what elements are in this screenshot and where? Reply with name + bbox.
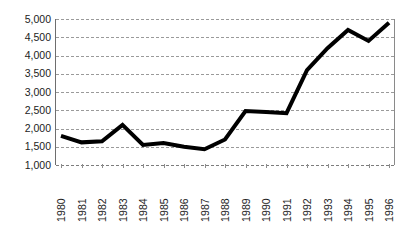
x-tick-mark [102,164,103,168]
x-tick-mark [246,164,247,168]
y-tick-label: 1,000 [3,160,51,171]
x-tick-label: 1985 [159,198,170,222]
x-tick-label: 1994 [343,198,354,222]
x-tick-mark [389,164,390,168]
gridline-5000 [56,19,394,20]
x-tick-label: 1996 [384,198,395,222]
gridline-4500 [56,37,394,38]
y-tick-label: 4,000 [3,50,51,61]
y-tick-label: 1,500 [3,141,51,152]
plot-area [55,19,395,165]
gridline-3500 [56,74,394,75]
x-tick-mark [143,164,144,168]
x-tick-mark [184,164,185,168]
x-tick-label: 1991 [282,198,293,222]
x-tick-label: 1987 [200,198,211,222]
y-tick-label: 3,000 [3,87,51,98]
x-tick-mark [348,164,349,168]
x-tick-mark [164,164,165,168]
x-tick-label: 1986 [179,198,190,222]
y-tick-label: 2,000 [3,123,51,134]
x-tick-mark [307,164,308,168]
x-tick-label: 1989 [241,198,252,222]
x-tick-label: 1984 [138,198,149,222]
x-tick-mark [328,164,329,168]
x-tick-mark [123,164,124,168]
x-tick-mark [205,164,206,168]
gridline-2000 [56,129,394,130]
line-chart: 5,0004,5004,0003,5003,0002,5002,0001,500… [0,0,410,230]
gridline-3000 [56,92,394,93]
x-tick-label: 1983 [118,198,129,222]
x-tick-label: 1992 [302,198,313,222]
x-tick-mark [266,164,267,168]
x-tick-mark [225,164,226,168]
x-tick-mark [61,164,62,168]
gridline-2500 [56,110,394,111]
x-tick-label: 1982 [97,198,108,222]
y-tick-label: 5,000 [3,14,51,25]
x-tick-label: 1995 [364,198,375,222]
x-tick-label: 1993 [323,198,334,222]
x-tick-label: 1990 [261,198,272,222]
x-tick-mark [82,164,83,168]
x-tick-label: 1981 [77,198,88,222]
y-tick-label: 2,500 [3,105,51,116]
gridline-1500 [56,147,394,148]
x-axis-tick-labels: 1980198119821983198419851986198719881989… [55,168,395,228]
y-tick-label: 4,500 [3,32,51,43]
x-tick-label: 1980 [56,198,67,222]
y-tick-label: 3,500 [3,68,51,79]
x-tick-mark [287,164,288,168]
x-tick-mark [369,164,370,168]
gridline-4000 [56,56,394,57]
x-tick-label: 1988 [220,198,231,222]
